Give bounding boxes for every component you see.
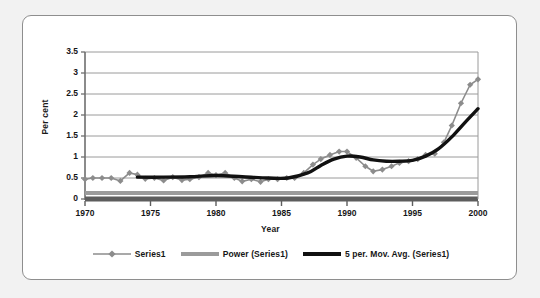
y-axis-tick-label: 1.5 <box>44 130 78 140</box>
y-axis-tick-label: 3 <box>44 67 78 77</box>
legend-swatch-line-marker <box>92 248 132 260</box>
series1-marker-diamond <box>239 178 245 184</box>
chart-card: Per cent Year 3.532.521.510.50 197019751… <box>22 15 517 280</box>
y-axis-tick-label: 0.5 <box>44 172 78 182</box>
x-axis-tick-label: 1970 <box>65 208 105 218</box>
legend-item[interactable]: Series1 <box>92 248 166 260</box>
x-axis-tick-label: 1995 <box>393 208 433 218</box>
legend-label: Series1 <box>135 249 166 259</box>
series1-marker-diamond <box>379 167 385 173</box>
y-axis-tick-label: 2 <box>44 109 78 119</box>
x-axis-tick-label: 2000 <box>458 208 498 218</box>
series1-marker-diamond <box>449 122 455 128</box>
chart-canvas <box>23 16 518 281</box>
series1-marker-diamond <box>257 179 263 185</box>
x-axis-title: Year <box>23 224 518 234</box>
series1-marker-diamond <box>82 176 88 182</box>
chart-plot-area: Per cent Year 3.532.521.510.50 197019751… <box>23 16 518 281</box>
chart-legend: Series1Power (Series1)5 per. Mov. Avg. (… <box>23 248 518 260</box>
series1-line <box>85 79 478 181</box>
y-axis-tick-label: 3.5 <box>44 46 78 56</box>
legend-label: Power (Series1) <box>223 249 288 259</box>
legend-item[interactable]: 5 per. Mov. Avg. (Series1) <box>302 248 449 260</box>
y-axis-tick-label: 2.5 <box>44 88 78 98</box>
x-axis-tick-label: 1990 <box>327 208 367 218</box>
screenshot-root: Per cent Year 3.532.521.510.50 197019751… <box>0 0 540 298</box>
x-axis-tick-label: 1975 <box>131 208 171 218</box>
x-axis-tick-label: 1985 <box>262 208 302 218</box>
legend-swatch-thick-line <box>302 248 342 260</box>
legend-label: 5 per. Mov. Avg. (Series1) <box>345 249 449 259</box>
series1-marker-diamond <box>99 175 105 181</box>
series-moving-average-line <box>137 109 478 179</box>
series1-marker-diamond <box>90 175 96 181</box>
series1-marker-diamond <box>336 148 342 154</box>
x-axis-tick-label: 1980 <box>196 208 236 218</box>
series1-marker-diamond <box>388 163 394 169</box>
y-axis-tick-label: 1 <box>44 151 78 161</box>
series1-marker-diamond <box>108 175 114 181</box>
legend-marker-diamond <box>108 250 115 257</box>
y-axis-tick-label: 0 <box>44 193 78 203</box>
legend-item[interactable]: Power (Series1) <box>180 248 288 260</box>
legend-swatch-thick-line <box>180 248 220 260</box>
series1-marker-diamond <box>458 100 464 106</box>
